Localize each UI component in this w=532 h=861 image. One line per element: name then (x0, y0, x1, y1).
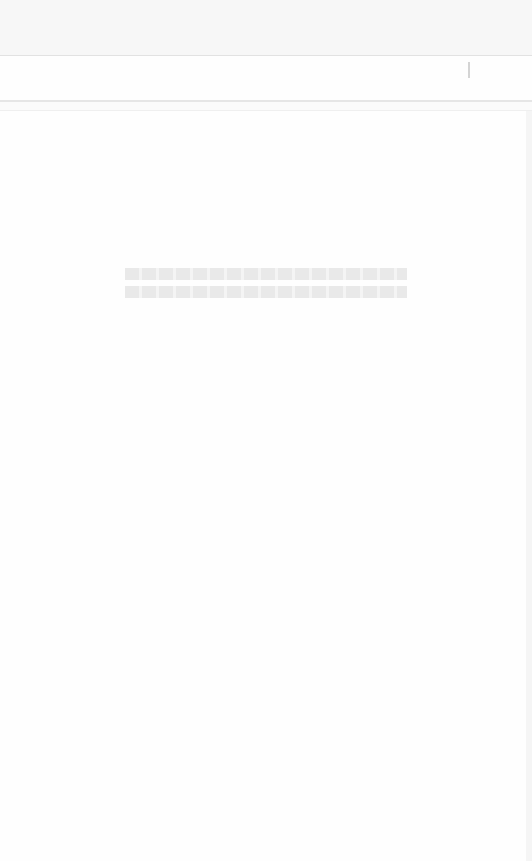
main-content (0, 111, 532, 861)
empty-state-message (125, 268, 407, 304)
cursor-bar-icon[interactable] (467, 62, 471, 78)
message-line-1 (125, 268, 407, 280)
toolbar (0, 56, 532, 102)
app-header (0, 0, 532, 56)
divider (0, 102, 532, 111)
message-line-2 (125, 286, 407, 298)
scrollbar[interactable] (526, 111, 532, 861)
